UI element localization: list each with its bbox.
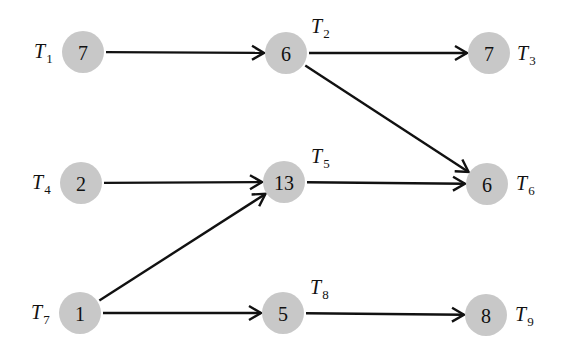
node-t2: 6T2 [265, 15, 330, 74]
edge-line [307, 182, 465, 184]
task-label: T8 [310, 276, 329, 302]
node-t7: 1T7 [31, 292, 101, 334]
edge-t7-t5 [99, 194, 265, 301]
task-graph: 7T16T27T32T413T56T61T75T88T9 [0, 0, 564, 347]
edge-t1-t2 [106, 46, 264, 60]
edge-t7-t8 [103, 306, 261, 320]
node-weight: 1 [75, 303, 85, 325]
node-t6: 6T6 [466, 163, 535, 205]
edge-t4-t5 [104, 175, 262, 189]
task-label: T6 [516, 172, 535, 198]
edge-line [106, 52, 264, 53]
node-weight: 6 [482, 174, 492, 196]
edge-t5-t6 [307, 177, 465, 191]
node-weight: 13 [274, 172, 294, 194]
task-label: T3 [517, 42, 536, 68]
edge-t2-t6 [305, 66, 468, 172]
edge-line [305, 66, 468, 172]
nodes-layer: 7T16T27T32T413T56T61T75T88T9 [31, 15, 536, 336]
edge-t2-t3 [309, 46, 467, 60]
edge-t8-t9 [306, 308, 464, 322]
node-weight: 8 [481, 305, 491, 327]
task-label: T4 [32, 171, 51, 197]
node-weight: 7 [78, 42, 88, 64]
node-weight: 7 [484, 43, 494, 65]
node-t4: 2T4 [32, 162, 102, 204]
edge-line [104, 182, 262, 183]
node-t8: 5T8 [262, 276, 329, 334]
node-weight: 5 [278, 303, 288, 325]
arrowhead-icon [455, 160, 469, 172]
node-weight: 2 [76, 173, 86, 195]
task-label: T1 [34, 40, 53, 66]
edge-line [99, 194, 265, 301]
task-label: T9 [515, 303, 534, 329]
node-t5: 13T5 [263, 145, 330, 203]
edge-line [306, 313, 464, 315]
node-t3: 7T3 [468, 32, 536, 74]
task-label: T7 [31, 301, 50, 327]
node-t9: 8T9 [465, 294, 534, 336]
task-label: T2 [311, 15, 330, 41]
node-t1: 7T1 [34, 31, 104, 73]
node-weight: 6 [281, 43, 291, 65]
task-label: T5 [311, 145, 330, 171]
